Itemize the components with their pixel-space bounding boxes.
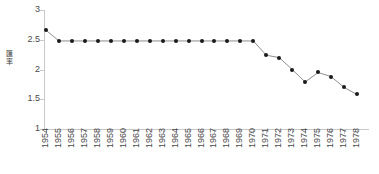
x-axis-tick-label: 1960 xyxy=(119,128,128,148)
x-axis-tick-label: 1954 xyxy=(41,128,50,148)
y-axis-title-char-2: 率 xyxy=(2,58,16,66)
x-axis-tick-label: 1957 xyxy=(80,128,89,148)
x-axis-tick-label: 1972 xyxy=(274,128,283,148)
x-axis-tick-label: 1966 xyxy=(197,128,206,148)
y-axis-tick-label: 1 xyxy=(18,124,40,133)
x-axis-tick-label: 1963 xyxy=(158,128,167,148)
x-axis-tick-label: 1962 xyxy=(145,128,154,148)
x-axis-tick-label: 1956 xyxy=(67,128,76,148)
y-axis-tick-label: 1.5 xyxy=(18,94,40,103)
x-axis-tick-label: 1976 xyxy=(326,128,335,148)
y-axis-tick-label: 3 xyxy=(18,5,40,14)
x-axis-tick-label: 1971 xyxy=(261,128,270,148)
x-axis-tick-label: 1958 xyxy=(93,128,102,148)
x-axis-tick-label: 1968 xyxy=(222,128,231,148)
y-axis-title-char-1: 匯 xyxy=(2,50,16,58)
x-axis-tick-label: 1967 xyxy=(209,128,218,148)
x-axis-tick-label: 1961 xyxy=(132,128,141,148)
x-axis-tick-label: 1969 xyxy=(235,128,244,148)
line-chart: 匯 率 11.522.53 19541955195619571958195919… xyxy=(0,0,379,174)
x-axis-tick-label: 1974 xyxy=(300,128,309,148)
y-axis-tick-label: 2.5 xyxy=(18,35,40,44)
x-axis-tick-label: 1977 xyxy=(339,128,348,148)
y-axis-tick-label: 2 xyxy=(18,65,40,74)
x-axis-tick-label: 1975 xyxy=(313,128,322,148)
x-axis-tick-label: 1970 xyxy=(248,128,257,148)
x-axis-tick-label: 1955 xyxy=(54,128,63,148)
x-axis-tick-label: 1973 xyxy=(287,128,296,148)
y-axis-tick-labels: 11.522.53 xyxy=(18,0,40,174)
x-axis-tick-label: 1964 xyxy=(171,128,180,148)
x-axis-tick-label: 1965 xyxy=(184,128,193,148)
x-axis-tick-labels: 1954195519561957195819591960196119621963… xyxy=(44,0,379,174)
x-axis-tick-label: 1978 xyxy=(352,128,361,148)
y-axis-title: 匯 率 xyxy=(2,50,16,66)
x-axis-tick-label: 1959 xyxy=(106,128,115,148)
